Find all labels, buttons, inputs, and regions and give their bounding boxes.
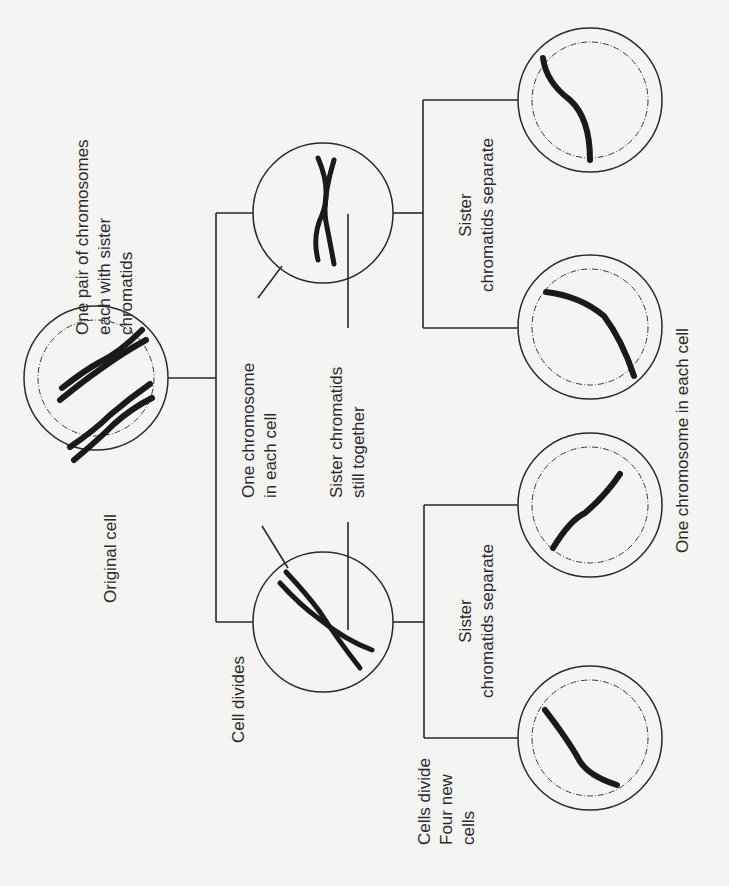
label-original-cell: Original cell: [101, 514, 120, 603]
label-cells-divide-2: Four new: [437, 773, 456, 845]
label-sister-together-1: Sister chromatids: [327, 367, 346, 498]
label-one-chromosome-2: in each cell: [261, 413, 280, 498]
label-sister-separate-bottom-2: chromatids separate: [478, 544, 497, 698]
mid-cell-upper: [253, 143, 393, 283]
label-cell-divides: Cell divides: [229, 656, 248, 743]
label-sister-together-2: still together: [349, 406, 368, 498]
mid-cell-lower: [253, 552, 393, 692]
final-cell-3: [518, 433, 662, 577]
label-sister-separate-top-2: chromatids separate: [478, 138, 497, 292]
label-pair-desc-1: One pair of chromosomes: [73, 139, 92, 335]
label-pair-desc-3: chromatids: [117, 252, 136, 335]
label-sister-separate-top-1: Sister: [456, 193, 475, 237]
label-final: One chromosome in each cell: [673, 328, 692, 553]
label-sister-separate-bottom-1: Sister: [456, 599, 475, 643]
meiosis-diagram: Original cell One pair of chromosomes ea…: [0, 0, 729, 886]
label-cells-divide-3: cells: [459, 811, 478, 845]
final-cell-1: [518, 28, 662, 172]
label-cells-divide-1: Cells divide: [415, 758, 434, 845]
label-one-chromosome-1: One chromosome: [239, 363, 258, 498]
label-pair-desc-2: each with sister: [95, 218, 114, 335]
final-cell-2: [518, 255, 662, 399]
labels: Original cell One pair of chromosomes ea…: [73, 138, 692, 845]
final-cell-4: [518, 666, 662, 810]
